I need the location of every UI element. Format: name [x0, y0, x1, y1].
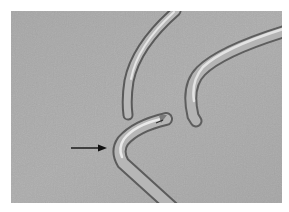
photo-canvas	[11, 11, 282, 203]
photograph: Grayscale photograph of three bent metal…	[11, 11, 282, 203]
